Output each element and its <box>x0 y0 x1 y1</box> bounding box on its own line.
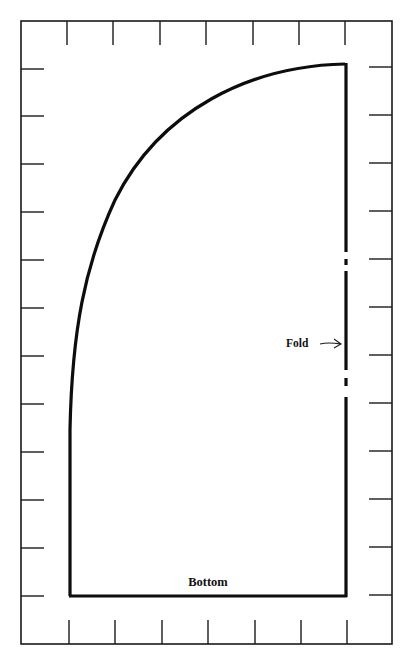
pattern-diagram: Fold Bottom <box>0 0 408 659</box>
fold-arrow-icon <box>320 339 341 348</box>
fold-label: Fold <box>286 337 309 349</box>
bottom-label: Bottom <box>188 575 228 589</box>
pattern-curve-edge <box>70 64 345 596</box>
